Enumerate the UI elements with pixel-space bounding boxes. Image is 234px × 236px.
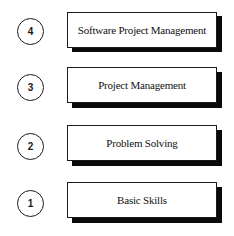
level-row-1: 1 Basic Skills	[0, 180, 234, 224]
level-number: 4	[28, 26, 34, 37]
level-box: Basic Skills	[67, 182, 217, 218]
level-box: Problem Solving	[67, 125, 217, 161]
level-label: Basic Skills	[117, 194, 167, 206]
level-number: 1	[28, 198, 34, 209]
level-number-circle: 2	[17, 133, 44, 160]
level-row-3: 3 Project Management	[0, 65, 234, 109]
level-box: Software Project Management	[67, 12, 217, 48]
level-row-4: 4 Software Project Management	[0, 10, 234, 54]
level-number-circle: 3	[17, 74, 44, 101]
level-number-circle: 1	[17, 190, 44, 217]
level-number-circle: 4	[17, 18, 44, 45]
level-box: Project Management	[67, 67, 217, 103]
level-number: 3	[28, 82, 34, 93]
level-row-2: 2 Problem Solving	[0, 123, 234, 167]
level-label: Software Project Management	[78, 24, 206, 36]
level-label: Problem Solving	[106, 137, 177, 149]
level-label: Project Management	[98, 79, 186, 91]
level-number: 2	[28, 141, 34, 152]
